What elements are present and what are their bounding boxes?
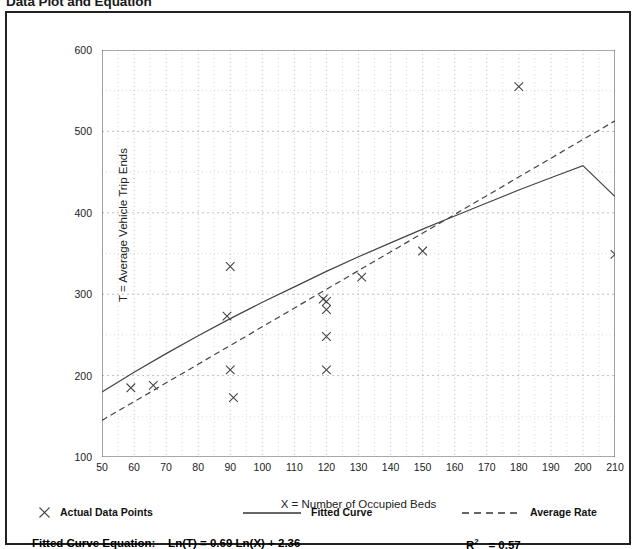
legend-label-fitted-curve: Fitted Curve — [311, 506, 372, 519]
chart-legend: Actual Data Points Fitted Curve Average … — [14, 502, 626, 528]
svg-text:50: 50 — [96, 461, 108, 473]
legend-item-actual-data-points: Actual Data Points — [38, 506, 153, 519]
r-squared-value: R2 = 0.57 — [466, 537, 521, 549]
svg-text:100: 100 — [74, 451, 92, 463]
grid-minor-layer — [102, 50, 615, 457]
legend-label-average-rate: Average Rate — [530, 506, 597, 519]
svg-text:110: 110 — [286, 461, 303, 473]
equation-label: Fitted Curve Equation: — [32, 537, 155, 549]
data-point-layer — [127, 82, 615, 402]
svg-text:500: 500 — [74, 125, 92, 137]
equation-formula: Ln(T) = 0.69 Ln(X) + 2.36 — [168, 537, 300, 549]
legend-item-average-rate: Average Rate — [461, 506, 597, 519]
plot-area: 5060708090100110120130140150160170180190… — [102, 50, 615, 457]
r-squared-exponent: 2 — [474, 537, 478, 546]
solid-line-icon — [242, 508, 302, 518]
svg-text:170: 170 — [478, 461, 496, 473]
svg-text:210: 210 — [606, 461, 624, 473]
legend-label-actual-data-points: Actual Data Points — [60, 506, 153, 519]
dashed-line-icon — [461, 508, 521, 518]
data-point — [229, 393, 238, 402]
fitted-curve-equation: Fitted Curve Equation: Ln(T) = 0.69 Ln(X… — [32, 537, 300, 549]
equation-row: Fitted Curve Equation: Ln(T) = 0.69 Ln(X… — [14, 534, 626, 549]
svg-text:130: 130 — [350, 461, 368, 473]
svg-text:200: 200 — [74, 370, 92, 382]
data-point — [226, 262, 235, 271]
svg-text:190: 190 — [542, 461, 560, 473]
svg-text:60: 60 — [128, 461, 140, 473]
svg-text:100: 100 — [254, 461, 272, 473]
y-tick-label-layer: 100200300400500600 — [74, 44, 92, 463]
svg-text:300: 300 — [74, 288, 92, 300]
data-point — [515, 82, 524, 91]
figure-frame: 5060708090100110120130140150160170180190… — [5, 11, 631, 545]
svg-text:180: 180 — [510, 461, 528, 473]
svg-text:80: 80 — [192, 461, 204, 473]
scatter-plot-svg — [102, 50, 615, 457]
svg-text:90: 90 — [224, 461, 236, 473]
page-title: Data Plot and Equation — [6, 0, 152, 9]
data-point — [357, 273, 366, 282]
svg-text:400: 400 — [74, 207, 92, 219]
x-marker-icon — [38, 506, 51, 519]
svg-text:160: 160 — [446, 461, 464, 473]
svg-text:140: 140 — [382, 461, 400, 473]
svg-text:600: 600 — [74, 44, 92, 56]
svg-text:70: 70 — [160, 461, 172, 473]
svg-text:150: 150 — [414, 461, 432, 473]
legend-item-fitted-curve: Fitted Curve — [242, 506, 372, 519]
svg-text:120: 120 — [318, 461, 336, 473]
x-tick-label-layer: 5060708090100110120130140150160170180190… — [96, 461, 624, 473]
data-point — [322, 332, 331, 341]
data-point — [149, 381, 158, 390]
data-point — [223, 312, 232, 321]
y-axis-title: T = Average Vehicle Trip Ends — [117, 65, 129, 385]
svg-text:200: 200 — [574, 461, 592, 473]
data-point — [611, 250, 615, 259]
r-squared-number: = 0.57 — [488, 539, 520, 549]
